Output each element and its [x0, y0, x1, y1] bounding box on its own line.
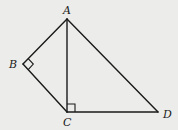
diagram-svg: A B C D	[0, 0, 178, 130]
label-d: D	[162, 108, 172, 121]
segment-ad	[67, 19, 158, 112]
right-angle-mark-b	[28, 59, 33, 70]
geometry-diagram: A B C D	[0, 0, 178, 130]
right-angle-mark-c	[67, 104, 75, 112]
label-b: B	[8, 58, 17, 71]
label-a: A	[62, 4, 71, 17]
segment-bc	[23, 64, 67, 112]
label-c: C	[63, 116, 72, 129]
segment-ab	[23, 19, 67, 64]
